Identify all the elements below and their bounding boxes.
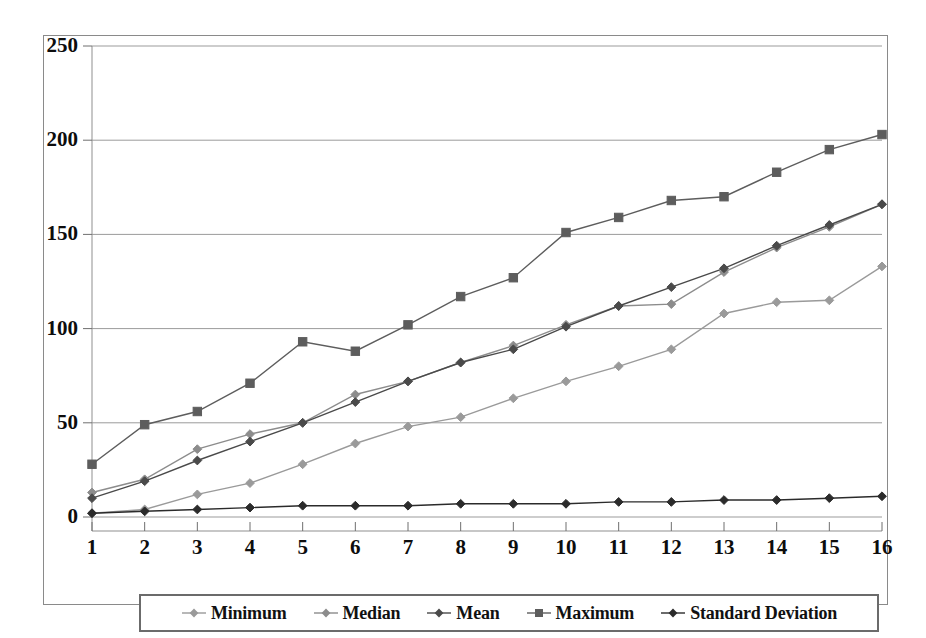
x-tick-label: 13 [704, 535, 744, 560]
y-tick-label: 200 [44, 127, 78, 152]
data-point-minimum-9 [509, 394, 518, 403]
x-tick-label: 12 [651, 535, 691, 560]
data-point-maximum-9 [509, 274, 517, 282]
data-point-mean-5 [298, 418, 307, 427]
x-tick-label: 3 [177, 535, 217, 560]
data-point-standard-deviation-3 [193, 505, 202, 514]
x-tick-label: 14 [757, 535, 797, 560]
data-point-maximum-5 [298, 338, 306, 346]
legend-item-median[interactable]: Median [313, 603, 401, 624]
data-point-standard-deviation-14 [772, 496, 781, 505]
diamond-marker-icon [660, 606, 686, 620]
y-tick-label: 150 [44, 221, 78, 246]
legend-item-label: Maximum [556, 603, 635, 624]
x-tick-label: 16 [862, 535, 902, 560]
data-point-minimum-13 [720, 309, 729, 318]
data-point-standard-deviation-1 [88, 509, 97, 518]
chart-legend: MinimumMedianMeanMaximumStandard Deviati… [139, 594, 879, 632]
data-point-median-12 [667, 300, 676, 309]
data-point-standard-deviation-13 [720, 496, 729, 505]
data-point-mean-1 [88, 494, 97, 503]
legend-item-mean[interactable]: Mean [426, 603, 499, 624]
x-tick-label: 15 [809, 535, 849, 560]
data-point-minimum-14 [772, 298, 781, 307]
x-tick-label: 6 [335, 535, 375, 560]
data-point-mean-6 [351, 398, 360, 407]
data-point-standard-deviation-5 [298, 501, 307, 510]
x-tick-label: 2 [125, 535, 165, 560]
diamond-marker-icon [426, 606, 452, 620]
data-point-minimum-11 [614, 362, 623, 371]
data-point-maximum-15 [825, 145, 833, 153]
data-point-median-3 [193, 445, 202, 454]
series-line-maximum [92, 135, 882, 465]
data-point-mean-16 [878, 200, 887, 209]
data-point-maximum-3 [193, 407, 201, 415]
data-point-minimum-16 [878, 262, 887, 271]
data-point-minimum-15 [825, 296, 834, 305]
data-point-maximum-13 [720, 193, 728, 201]
data-point-maximum-7 [404, 321, 412, 329]
data-point-standard-deviation-4 [246, 503, 255, 512]
legend-item-label: Mean [456, 603, 499, 624]
data-point-minimum-12 [667, 345, 676, 354]
data-point-mean-8 [456, 358, 465, 367]
data-point-standard-deviation-6 [351, 501, 360, 510]
data-point-minimum-7 [404, 422, 413, 431]
x-tick-label: 4 [230, 535, 270, 560]
series-line-median [92, 204, 882, 492]
diamond-marker-icon [181, 606, 207, 620]
data-point-maximum-1 [88, 460, 96, 468]
data-point-minimum-10 [562, 377, 571, 386]
data-point-maximum-6 [351, 347, 359, 355]
data-point-standard-deviation-9 [509, 499, 518, 508]
data-point-minimum-8 [456, 413, 465, 422]
data-point-maximum-14 [772, 168, 780, 176]
data-point-standard-deviation-11 [614, 498, 623, 507]
data-point-minimum-5 [298, 460, 307, 469]
data-point-minimum-4 [246, 479, 255, 488]
legend-item-label: Median [343, 603, 401, 624]
data-point-standard-deviation-10 [562, 499, 571, 508]
legend-item-label: Standard Deviation [690, 603, 837, 624]
data-point-minimum-6 [351, 439, 360, 448]
x-tick-label: 10 [546, 535, 586, 560]
square-marker-icon [526, 606, 552, 620]
data-point-minimum-3 [193, 490, 202, 499]
data-point-mean-11 [614, 302, 623, 311]
series-line-mean [92, 204, 882, 498]
chart-plot-area [44, 36, 887, 604]
data-point-standard-deviation-16 [878, 492, 887, 501]
series-line-minimum [92, 266, 882, 513]
y-tick-label: 0 [44, 504, 78, 529]
legend-item-label: Minimum [211, 603, 287, 624]
data-point-maximum-10 [562, 228, 570, 236]
data-point-mean-7 [404, 377, 413, 386]
data-point-maximum-2 [140, 420, 148, 428]
legend-item-maximum[interactable]: Maximum [526, 603, 635, 624]
x-tick-label: 1 [72, 535, 112, 560]
legend-item-minimum[interactable]: Minimum [181, 603, 287, 624]
data-point-maximum-16 [878, 130, 886, 138]
x-tick-label: 11 [599, 535, 639, 560]
data-point-mean-3 [193, 456, 202, 465]
data-point-mean-4 [246, 437, 255, 446]
data-point-maximum-12 [667, 196, 675, 204]
x-tick-label: 7 [388, 535, 428, 560]
y-tick-label: 100 [44, 316, 78, 341]
data-point-maximum-11 [614, 213, 622, 221]
chart-frame: 05010015020025012345678910111213141516 M… [43, 35, 888, 605]
series-line-standard-deviation [92, 496, 882, 513]
x-tick-label: 5 [283, 535, 323, 560]
y-tick-label: 50 [44, 410, 78, 435]
x-tick-label: 8 [441, 535, 481, 560]
x-tick-label: 9 [493, 535, 533, 560]
y-tick-label: 250 [44, 33, 78, 58]
legend-item-standard-deviation[interactable]: Standard Deviation [660, 603, 837, 624]
data-point-standard-deviation-8 [456, 499, 465, 508]
data-point-standard-deviation-12 [667, 498, 676, 507]
diamond-marker-icon [313, 606, 339, 620]
data-point-standard-deviation-15 [825, 494, 834, 503]
data-point-maximum-8 [456, 292, 464, 300]
data-point-maximum-4 [246, 379, 254, 387]
